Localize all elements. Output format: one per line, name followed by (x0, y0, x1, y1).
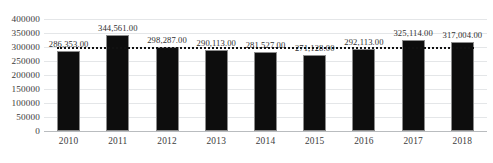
y-axis-tick-label: 200000 (12, 70, 40, 80)
y-axis-tick-label: 100000 (12, 98, 40, 108)
bar[interactable] (57, 51, 80, 131)
bar[interactable] (303, 55, 326, 131)
bar[interactable] (402, 40, 425, 131)
bar[interactable] (106, 35, 129, 131)
bar-value-label: 344,561.00 (98, 23, 138, 33)
x-axis-tick-label: 2015 (305, 136, 325, 146)
bar-value-label: 298,287.00 (147, 35, 187, 45)
y-axis-tick-labels: 4000003500003000002500002000001500001000… (0, 0, 40, 163)
bar[interactable] (254, 52, 277, 131)
bar-value-label: 292,113.00 (344, 37, 383, 47)
x-axis-tick-label: 2010 (59, 136, 79, 146)
y-axis-tick-label: 400000 (12, 14, 40, 24)
y-axis-tick-label: 300000 (12, 42, 40, 52)
x-axis-line (44, 131, 487, 132)
x-axis-tick-label: 2013 (206, 136, 226, 146)
y-axis-tick-label: 350000 (12, 28, 40, 38)
bar-value-label: 317,004.00 (443, 30, 483, 40)
trendline (57, 47, 474, 49)
x-axis-tick-label: 2016 (354, 136, 374, 146)
x-axis-tick-label: 2012 (157, 136, 177, 146)
bar[interactable] (205, 50, 228, 131)
plot-area: 286,353.00344,561.00298,287.00290,113.00… (44, 19, 487, 131)
y-axis-tick-label: 250000 (12, 56, 40, 66)
y-axis-tick-label: 150000 (12, 84, 40, 94)
x-axis-tick-label: 2014 (256, 136, 276, 146)
bar[interactable] (156, 47, 179, 131)
y-axis-tick-label: 50000 (16, 112, 40, 122)
x-axis-tick-label: 2017 (403, 136, 423, 146)
bar-value-label: 325,114.00 (393, 28, 432, 38)
y-axis-tick-label: 0 (35, 126, 40, 136)
bar-chart: 4000003500003000002500002000001500001000… (0, 0, 493, 163)
bar[interactable] (352, 49, 375, 131)
x-axis-tick-label: 2011 (108, 136, 127, 146)
gridline (44, 19, 487, 20)
x-axis-tick-label: 2018 (453, 136, 473, 146)
bar[interactable] (451, 42, 474, 131)
